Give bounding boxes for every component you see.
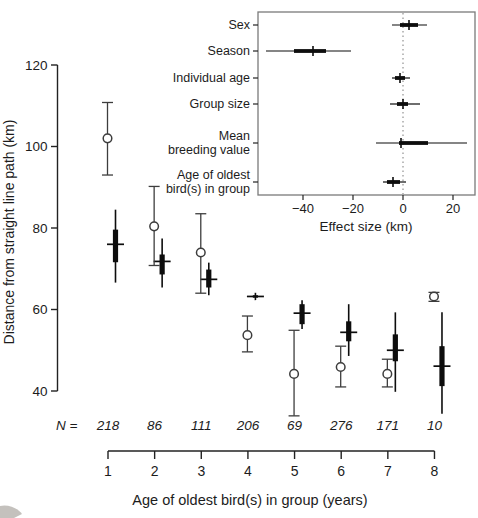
inset-row-label: breeding value bbox=[168, 143, 250, 157]
estimate-thick-ci-age-1 bbox=[113, 230, 118, 263]
inset-thick-ci-2 bbox=[294, 49, 326, 53]
y-tick-label: 80 bbox=[32, 221, 47, 236]
x-tick-label: 2 bbox=[151, 463, 159, 479]
n-value: 171 bbox=[377, 418, 400, 433]
observed-mean-circle-age-2 bbox=[150, 222, 159, 231]
n-value: 111 bbox=[191, 418, 212, 433]
inset-row-label: Group size bbox=[190, 97, 250, 111]
n-value: 86 bbox=[147, 418, 163, 433]
inset-thick-ci-5 bbox=[399, 141, 428, 145]
observed-mean-circle-age-7 bbox=[383, 370, 392, 379]
observed-mean-circle-age-8 bbox=[430, 292, 439, 301]
estimate-thick-ci-age-6 bbox=[346, 321, 351, 341]
inset-x-tick-label: −20 bbox=[342, 201, 364, 216]
n-value: 69 bbox=[287, 418, 303, 433]
inset-row-label: Age of oldest bbox=[177, 168, 250, 182]
x-axis-title: Age of oldest bird(s) in group (years) bbox=[132, 492, 367, 508]
x-tick-label: 3 bbox=[197, 463, 205, 479]
n-value: 10 bbox=[427, 418, 443, 433]
inset-row-label: Season bbox=[208, 44, 250, 58]
y-tick-label: 100 bbox=[25, 139, 48, 154]
inset-x-tick-label: 0 bbox=[399, 201, 406, 216]
n-value: 276 bbox=[329, 418, 353, 433]
figure-svg: 406080100120Distance from straight line … bbox=[0, 0, 478, 518]
inset-row-label: Sex bbox=[228, 18, 250, 32]
observed-mean-circle-age-6 bbox=[336, 363, 345, 372]
inset-row-label: bird(s) in group bbox=[166, 182, 250, 196]
y-tick-label: 40 bbox=[32, 384, 47, 399]
inset-x-axis-title: Effect size (km) bbox=[320, 219, 413, 234]
n-value: 218 bbox=[96, 418, 120, 433]
y-axis-title: Distance from straight line path (km) bbox=[1, 120, 17, 345]
inset-row-label: Mean bbox=[219, 129, 250, 143]
scan-artifact bbox=[0, 505, 22, 518]
y-tick-label: 120 bbox=[25, 58, 48, 73]
estimate-thick-ci-age-5 bbox=[299, 304, 304, 324]
observed-mean-circle-age-5 bbox=[290, 370, 299, 379]
x-tick-label: 5 bbox=[291, 463, 299, 479]
x-tick-label: 8 bbox=[431, 463, 439, 479]
n-prefix-label: N = bbox=[56, 418, 78, 433]
estimate-thick-ci-age-7 bbox=[393, 334, 398, 361]
observed-mean-circle-age-3 bbox=[196, 248, 205, 257]
estimate-thick-ci-age-2 bbox=[160, 254, 165, 274]
inset-row-label: Individual age bbox=[173, 71, 250, 85]
x-tick-label: 6 bbox=[337, 463, 345, 479]
x-tick-label: 1 bbox=[104, 463, 112, 479]
inset-x-tick-label: 20 bbox=[446, 201, 460, 216]
x-tick-label: 4 bbox=[244, 463, 252, 479]
observed-mean-circle-age-4 bbox=[243, 331, 252, 340]
n-value: 206 bbox=[236, 418, 260, 433]
figure-root: 406080100120Distance from straight line … bbox=[0, 0, 478, 518]
x-tick-label: 7 bbox=[384, 463, 392, 479]
observed-mean-circle-age-1 bbox=[103, 134, 112, 143]
y-tick-label: 60 bbox=[32, 302, 47, 317]
inset-frame bbox=[258, 12, 475, 195]
inset-x-tick-label: −40 bbox=[292, 201, 314, 216]
